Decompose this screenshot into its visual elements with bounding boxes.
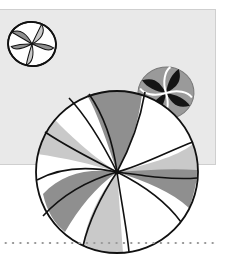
peppermint-illustration — [0, 0, 225, 254]
large-candy — [36, 91, 198, 253]
small-candy-top-left — [5, 18, 60, 70]
dotted-divider — [2, 241, 216, 245]
